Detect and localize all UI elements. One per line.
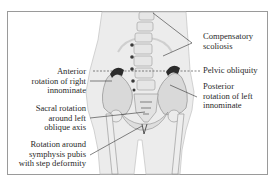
label-posterior-rotation: Posterior rotation of left innominate bbox=[203, 82, 253, 111]
label-line: innominate bbox=[32, 86, 86, 96]
label-line: with step deformity bbox=[19, 159, 86, 169]
label-line: scoliosis bbox=[203, 42, 253, 52]
label-symphysis-rotation: Rotation around symphysis pubis with ste… bbox=[19, 140, 86, 169]
label-line: Pelvic obliquity bbox=[203, 66, 258, 76]
label-pelvic-obliquity: Pelvic obliquity bbox=[203, 66, 258, 76]
label-sacral-rotation: Sacral rotation around left oblique axis bbox=[36, 104, 86, 133]
label-anterior-rotation: Anterior rotation of right innominate bbox=[32, 67, 86, 96]
label-line: oblique axis bbox=[36, 123, 86, 133]
label-compensatory-scoliosis: Compensatory scoliosis bbox=[203, 32, 253, 51]
label-line: innominate bbox=[203, 101, 253, 111]
